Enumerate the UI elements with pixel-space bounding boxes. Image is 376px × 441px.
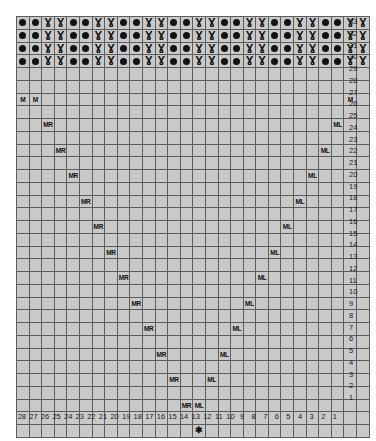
chart-cell[interactable] (268, 42, 281, 55)
chart-cell[interactable] (319, 182, 332, 195)
chart-cell[interactable] (17, 80, 30, 93)
chart-cell[interactable] (319, 272, 332, 285)
chart-cell[interactable] (79, 335, 92, 348)
chart-cell[interactable] (17, 157, 30, 170)
chart-cell[interactable] (142, 170, 155, 183)
chart-cell[interactable] (54, 182, 67, 195)
chart-cell[interactable] (67, 335, 80, 348)
chart-cell[interactable] (29, 272, 42, 285)
chart-cell[interactable] (67, 17, 80, 30)
chart-cell[interactable] (117, 55, 130, 68)
chart-cell[interactable] (180, 55, 193, 68)
chart-cell[interactable] (319, 106, 332, 119)
chart-cell[interactable] (92, 195, 105, 208)
chart-cell[interactable] (67, 374, 80, 387)
chart-cell[interactable] (168, 182, 181, 195)
chart-cell[interactable]: MR (67, 170, 80, 183)
chart-cell[interactable] (79, 80, 92, 93)
chart-cell[interactable] (231, 272, 244, 285)
chart-cell[interactable]: Ɣ (256, 29, 269, 42)
chart-cell[interactable] (319, 131, 332, 144)
chart-cell[interactable] (306, 348, 319, 361)
chart-cell[interactable] (29, 182, 42, 195)
chart-cell[interactable] (105, 182, 118, 195)
chart-cell[interactable] (281, 208, 294, 221)
chart-cell[interactable] (117, 170, 130, 183)
chart-cell[interactable]: MR (168, 374, 181, 387)
chart-cell[interactable] (42, 374, 55, 387)
chart-cell[interactable] (319, 157, 332, 170)
chart-cell[interactable] (117, 93, 130, 106)
chart-cell[interactable] (79, 272, 92, 285)
chart-cell[interactable] (294, 68, 307, 81)
chart-cell[interactable] (331, 80, 344, 93)
chart-cell[interactable] (29, 335, 42, 348)
chart-cell[interactable] (231, 425, 244, 438)
chart-cell[interactable] (268, 221, 281, 234)
chart-cell[interactable] (92, 310, 105, 323)
chart-cell[interactable] (180, 106, 193, 119)
chart-cell[interactable]: MR (142, 323, 155, 336)
chart-cell[interactable] (331, 208, 344, 221)
chart-cell[interactable] (281, 246, 294, 259)
chart-cell[interactable] (180, 195, 193, 208)
chart-cell[interactable] (130, 29, 143, 42)
chart-cell[interactable] (268, 259, 281, 272)
chart-cell[interactable] (243, 182, 256, 195)
chart-cell[interactable] (218, 323, 231, 336)
chart-cell[interactable] (79, 374, 92, 387)
chart-cell[interactable] (331, 195, 344, 208)
chart-cell[interactable] (42, 221, 55, 234)
chart-cell[interactable] (243, 310, 256, 323)
chart-cell[interactable] (168, 170, 181, 183)
chart-cell[interactable] (117, 348, 130, 361)
chart-cell[interactable] (29, 284, 42, 297)
chart-cell[interactable] (17, 195, 30, 208)
chart-cell[interactable] (281, 361, 294, 374)
chart-cell[interactable]: Ɣ (193, 17, 206, 30)
chart-cell[interactable] (67, 425, 80, 438)
chart-cell[interactable] (180, 170, 193, 183)
chart-cell[interactable] (168, 221, 181, 234)
chart-cell[interactable] (130, 374, 143, 387)
chart-cell[interactable] (92, 284, 105, 297)
chart-cell[interactable] (281, 157, 294, 170)
chart-cell[interactable] (29, 195, 42, 208)
chart-cell[interactable] (268, 323, 281, 336)
chart-cell[interactable] (218, 29, 231, 42)
chart-cell[interactable] (105, 335, 118, 348)
chart-cell[interactable] (256, 348, 269, 361)
chart-cell[interactable] (130, 233, 143, 246)
chart-cell[interactable] (218, 42, 231, 55)
chart-cell[interactable] (294, 131, 307, 144)
chart-cell[interactable] (79, 17, 92, 30)
chart-cell[interactable] (319, 425, 332, 438)
chart-cell[interactable] (42, 208, 55, 221)
chart-cell[interactable] (231, 68, 244, 81)
chart-cell[interactable] (331, 68, 344, 81)
chart-cell[interactable]: ML (281, 221, 294, 234)
chart-cell[interactable] (331, 131, 344, 144)
chart-cell[interactable] (331, 361, 344, 374)
chart-cell[interactable] (42, 284, 55, 297)
chart-cell[interactable] (319, 42, 332, 55)
chart-cell[interactable] (17, 335, 30, 348)
chart-cell[interactable] (306, 208, 319, 221)
chart-cell[interactable] (92, 93, 105, 106)
chart-cell[interactable] (117, 42, 130, 55)
chart-cell[interactable] (231, 374, 244, 387)
chart-cell[interactable]: Ɣ (294, 55, 307, 68)
chart-cell[interactable] (306, 361, 319, 374)
chart-cell[interactable] (155, 195, 168, 208)
chart-cell[interactable] (281, 272, 294, 285)
chart-cell[interactable] (92, 259, 105, 272)
chart-cell[interactable] (319, 68, 332, 81)
chart-cell[interactable]: ML (319, 144, 332, 157)
chart-cell[interactable] (42, 170, 55, 183)
chart-cell[interactable]: Ɣ (92, 17, 105, 30)
chart-cell[interactable] (331, 310, 344, 323)
chart-cell[interactable] (243, 208, 256, 221)
chart-cell[interactable] (294, 272, 307, 285)
chart-cell[interactable] (205, 131, 218, 144)
chart-cell[interactable] (155, 170, 168, 183)
